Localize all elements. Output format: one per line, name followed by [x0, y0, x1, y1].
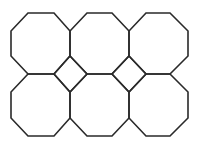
octagon-r1-c0 — [11, 74, 70, 136]
square-gap-2 — [112, 56, 146, 92]
octagon-group — [11, 13, 188, 136]
square-gap-1 — [54, 56, 87, 92]
octagon-tiling-diagram — [0, 0, 203, 154]
